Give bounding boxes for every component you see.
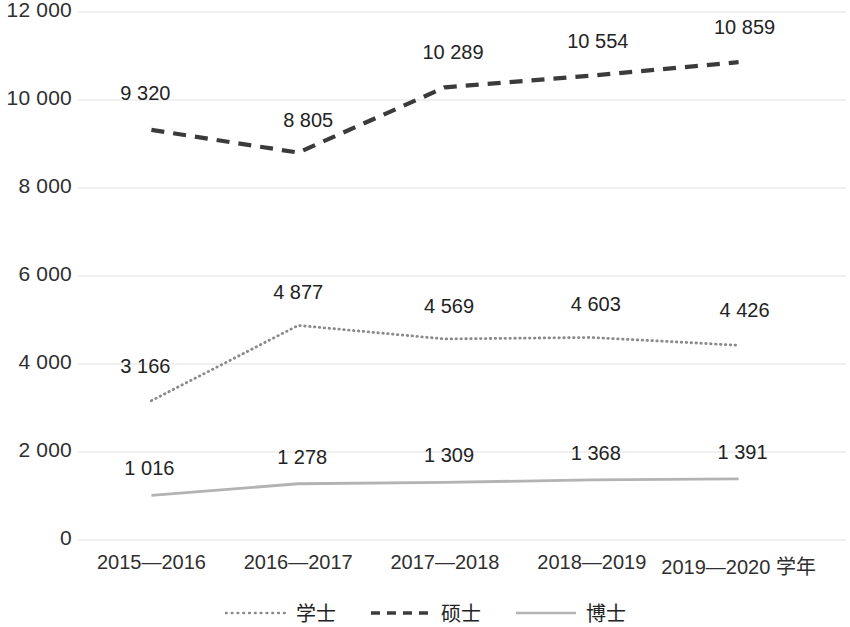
- data-label: 4 603: [536, 293, 656, 316]
- legend-label-master: 硕士: [441, 598, 481, 627]
- series-line-2: [151, 479, 738, 496]
- series-line-1: [151, 62, 738, 152]
- y-axis-tick-label: 8 000: [0, 174, 72, 198]
- series-lines: [151, 62, 738, 495]
- data-label: 3 166: [85, 355, 205, 378]
- data-label: 4 569: [389, 295, 509, 318]
- data-label: 4 426: [685, 299, 805, 322]
- y-axis-tick-label: 12 000: [0, 0, 72, 22]
- legend-swatch-dotted-icon: [225, 606, 287, 620]
- legend-label-doctor: 博士: [586, 598, 626, 627]
- data-label: 1 016: [89, 457, 209, 480]
- data-label: 9 320: [85, 82, 205, 105]
- line-chart: 12 00010 0008 0006 0004 0002 0000 2015—2…: [0, 0, 850, 627]
- data-label: 1 391: [683, 441, 803, 464]
- y-axis-tick-label: 2 000: [0, 438, 72, 462]
- y-axis-tick-label: 4 000: [0, 350, 72, 374]
- legend-item-doctor[interactable]: 博士: [515, 598, 626, 627]
- data-label: 4 877: [238, 281, 358, 304]
- legend-item-bachelor[interactable]: 学士: [225, 598, 336, 627]
- data-label: 8 805: [248, 109, 368, 132]
- data-label: 10 859: [685, 16, 805, 39]
- x-axis-tick-label: 2019—2020 学年: [649, 551, 829, 580]
- series-line-0: [151, 325, 738, 400]
- legend-item-master[interactable]: 硕士: [370, 598, 481, 627]
- y-axis-tick-label: 0: [0, 526, 72, 550]
- legend-swatch-dashed-icon: [370, 606, 432, 620]
- data-label: 1 368: [536, 442, 656, 465]
- data-label: 10 289: [393, 41, 513, 64]
- data-label: 1 278: [242, 446, 362, 469]
- y-axis-tick-label: 10 000: [0, 86, 72, 110]
- data-label: 1 309: [389, 444, 509, 467]
- y-axis-tick-label: 6 000: [0, 262, 72, 286]
- legend-swatch-solid-icon: [515, 606, 577, 620]
- legend-label-bachelor: 学士: [296, 598, 336, 627]
- chart-legend: 学士 硕士 博士: [0, 598, 850, 627]
- data-label: 10 554: [538, 30, 658, 53]
